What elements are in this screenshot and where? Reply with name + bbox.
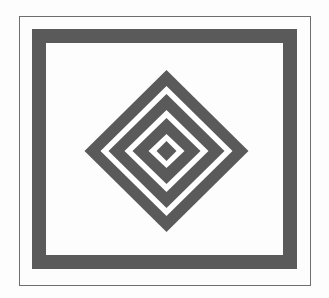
- figure-canvas: [0, 0, 329, 298]
- gray-band-frame: [32, 29, 297, 269]
